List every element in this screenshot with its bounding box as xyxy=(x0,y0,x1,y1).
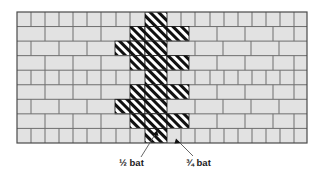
hatched-brick xyxy=(130,27,145,42)
hatched-brick xyxy=(145,114,167,129)
hatched-brick xyxy=(167,27,189,42)
diagram-canvas: ½ bat ¾ bat xyxy=(0,0,328,177)
hatched-brick xyxy=(130,56,145,71)
hatched-brick xyxy=(115,99,130,114)
hatched-brick xyxy=(145,56,167,71)
hatched-brick xyxy=(145,85,167,100)
label-three-quarter-bat: ¾ bat xyxy=(186,157,212,168)
hatched-brick xyxy=(130,114,145,129)
label-half-bat: ½ bat xyxy=(119,157,145,168)
hatched-brick xyxy=(145,128,167,143)
hatched-brick xyxy=(145,41,167,56)
brick-bond-diagram: ½ bat ¾ bat xyxy=(0,0,328,177)
hatched-brick xyxy=(167,56,189,71)
hatched-brick xyxy=(145,12,167,27)
hatched-brick xyxy=(130,85,145,100)
hatched-brick xyxy=(145,27,167,42)
wall-body xyxy=(17,12,307,143)
hatched-brick xyxy=(145,70,167,85)
hatched-brick xyxy=(145,99,167,114)
hatched-brick xyxy=(130,99,145,114)
hatched-brick xyxy=(130,41,145,56)
hatched-brick xyxy=(115,41,130,56)
hatched-brick xyxy=(167,85,189,100)
hatched-brick xyxy=(167,114,189,129)
